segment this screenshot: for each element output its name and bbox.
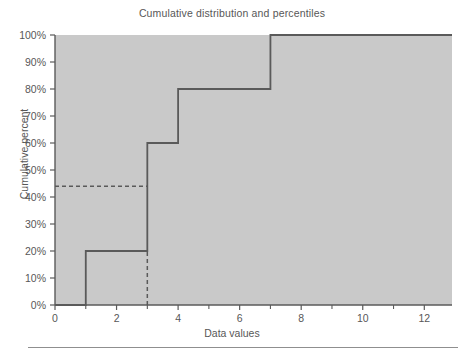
y-tick-label: 20% [25,245,46,257]
x-axis-ticks [55,305,424,310]
x-tick-label: 6 [237,312,243,324]
x-tick-label: 10 [357,312,369,324]
y-axis-title: Cumulative percent [18,84,30,224]
y-tick-label: 10% [25,272,46,284]
x-tick-label: 2 [114,312,120,324]
footer-rule [28,347,458,348]
chart-figure: Cumulative distribution and percentiles … [0,0,464,353]
plot-background [55,35,452,305]
x-tick-label: 12 [418,312,430,324]
y-tick-label: 0% [31,299,46,311]
x-axis-title: Data values [0,327,464,339]
y-tick-label: 90% [25,56,46,68]
y-axis-ticks [50,35,55,305]
y-tick-label: 100% [19,29,46,41]
x-tick-label: 8 [298,312,304,324]
x-tick-label: 0 [52,312,58,324]
x-tick-label: 4 [175,312,181,324]
x-axis-tick-labels: 024681012 [52,312,430,324]
chart-plot-area: 0%10%20%30%40%50%60%70%80%90%100% 024681… [0,0,464,353]
